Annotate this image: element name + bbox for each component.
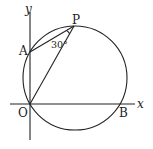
y-axis-label: y: [24, 2, 32, 16]
point-label-B: B: [119, 106, 128, 120]
point-label-A: A: [18, 44, 28, 58]
point-label-O: O: [18, 106, 28, 120]
circle: [23, 26, 127, 130]
coordinate-diagram: x y O A P B 30°: [0, 0, 153, 149]
x-axis-label: x: [137, 97, 144, 111]
segment-OP: [30, 26, 74, 104]
point-label-P: P: [72, 13, 80, 27]
angle-arc: [67, 30, 70, 33]
angle-label: 30°: [51, 39, 68, 50]
